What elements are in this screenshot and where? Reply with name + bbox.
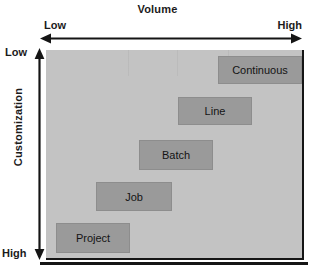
- category-label-continuous: Continuous: [232, 64, 288, 76]
- category-label-job: Job: [125, 191, 143, 203]
- y-axis-double-arrow-icon: [34, 48, 45, 260]
- y-axis-title: Customization: [12, 62, 24, 192]
- y-axis-low-label: Low: [5, 46, 27, 58]
- plot-area: Continuous Line Batch Job Project: [46, 50, 302, 258]
- x-axis-low-label: Low: [44, 19, 66, 31]
- category-box-job[interactable]: Job: [96, 182, 172, 211]
- product-process-matrix-chart: Volume Low High Customization Low High C…: [0, 0, 315, 276]
- category-label-project: Project: [76, 232, 110, 244]
- bottom-baseline: [40, 262, 308, 265]
- category-box-continuous[interactable]: Continuous: [218, 56, 302, 84]
- category-label-batch: Batch: [162, 149, 190, 161]
- category-box-batch[interactable]: Batch: [139, 140, 213, 170]
- category-label-line: Line: [205, 105, 226, 117]
- category-box-project[interactable]: Project: [56, 223, 130, 253]
- category-box-line[interactable]: Line: [178, 97, 252, 125]
- x-axis-double-arrow-icon: [40, 33, 302, 44]
- x-axis-high-label: High: [278, 19, 302, 31]
- x-axis-title: Volume: [0, 3, 315, 15]
- y-axis-high-label: High: [2, 247, 26, 259]
